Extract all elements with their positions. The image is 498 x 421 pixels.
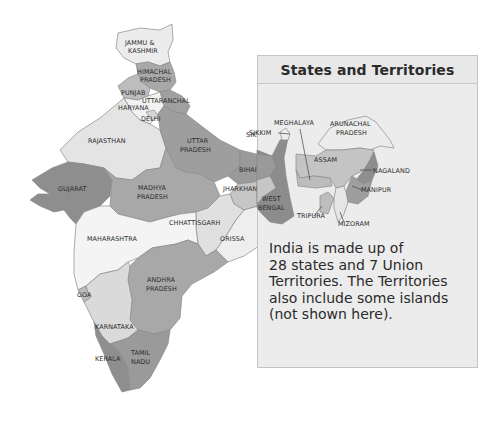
label-himachal-1: HIMACHAL bbox=[137, 68, 172, 76]
label-chhattisgarh: CHHATTISGARH bbox=[169, 219, 220, 227]
label-jammu-kashmir-2: KASHMIR bbox=[128, 47, 158, 55]
panel-description: India is made up of 28 states and 7 Unio… bbox=[269, 240, 474, 323]
label-uttar-pradesh-1: UTTAR bbox=[187, 137, 209, 145]
label-punjab: PUNJAB bbox=[121, 89, 145, 97]
label-karnataka: KARNATAKA bbox=[95, 323, 134, 331]
panel-line: also include some islands bbox=[269, 290, 474, 307]
label-tamil-nadu-2: NADU bbox=[131, 358, 150, 366]
label-madhya-pradesh-1: MADHYA bbox=[138, 184, 167, 192]
states-territories-panel: States and Territories India is made up … bbox=[257, 55, 478, 368]
label-haryana: HARYANA bbox=[118, 104, 149, 112]
label-orissa: ORISSA bbox=[220, 235, 245, 243]
label-gujarat: GUJARAT bbox=[58, 185, 86, 193]
label-jammu-kashmir-1: JAMMU & bbox=[124, 39, 155, 47]
label-andhra-pradesh-2: PRADESH bbox=[146, 285, 177, 293]
label-goa: GOA bbox=[77, 291, 92, 299]
label-delhi: DELHI bbox=[141, 115, 161, 123]
label-andhra-pradesh-1: ANDHRA bbox=[147, 276, 176, 284]
label-himachal-2: PRADESH bbox=[140, 76, 171, 84]
panel-line: (not shown here). bbox=[269, 306, 474, 323]
label-uttaranchal: UTTARANCHAL bbox=[142, 97, 190, 105]
label-uttar-pradesh-2: PRADESH bbox=[180, 146, 211, 154]
label-madhya-pradesh-2: PRADESH bbox=[137, 193, 168, 201]
label-tamil-nadu-1: TAMIL bbox=[130, 349, 151, 357]
panel-line: Territories. The Territories bbox=[269, 273, 474, 290]
panel-line: India is made up of bbox=[269, 240, 474, 257]
panel-header: States and Territories bbox=[258, 56, 477, 84]
panel-title: States and Territories bbox=[281, 62, 455, 78]
panel-line: 28 states and 7 Union bbox=[269, 257, 474, 274]
label-kerala: KERALA bbox=[95, 355, 121, 363]
label-maharashtra: MAHARASHTRA bbox=[87, 235, 138, 243]
region-andhra-pradesh[interactable] bbox=[128, 240, 228, 334]
label-rajasthan: RAJASTHAN bbox=[88, 137, 126, 145]
